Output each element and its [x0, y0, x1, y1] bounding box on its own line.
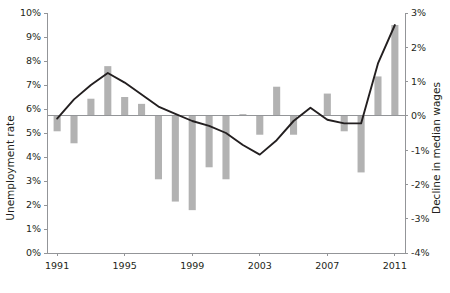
right-tick-label: -3% — [411, 213, 430, 224]
bar-1992 — [70, 116, 77, 143]
right-axis-title: Decline in median wages — [430, 82, 442, 214]
bar-1998 — [172, 116, 179, 202]
bar-2000 — [206, 116, 213, 167]
left-tick-label: 0% — [26, 247, 41, 258]
left-tick-label: 1% — [26, 223, 41, 234]
left-tick-label: 3% — [26, 175, 41, 186]
right-tick-label: 1% — [411, 76, 426, 87]
left-tick-label: 6% — [26, 103, 41, 114]
x-tick-label: 1995 — [113, 260, 137, 271]
chart-container: 0%1%2%3%4%5%6%7%8%9%10% -4%-3%-2%-1%0%1%… — [0, 0, 450, 293]
left-tick-label: 8% — [26, 55, 41, 66]
x-tick-label: 1991 — [45, 260, 69, 271]
left-tick-label: 7% — [26, 79, 41, 90]
bar-2011 — [391, 25, 398, 116]
bar-1993 — [87, 99, 94, 116]
bar-2010 — [374, 76, 381, 115]
bar-1996 — [138, 104, 145, 116]
x-tick-label: 1999 — [180, 260, 204, 271]
x-tick-label: 2003 — [248, 260, 272, 271]
right-tick-label: 2% — [411, 42, 426, 53]
left-tick-label: 9% — [26, 31, 41, 42]
bar-1999 — [189, 116, 196, 210]
bar-2004 — [273, 87, 280, 116]
bar-2003 — [256, 116, 263, 135]
bar-1995 — [121, 97, 128, 116]
bar-2007 — [324, 94, 331, 116]
right-tick-label: -1% — [411, 145, 430, 156]
left-tick-label: 2% — [26, 199, 41, 210]
right-tick-label: 0% — [411, 110, 426, 121]
x-tick-label: 2007 — [315, 260, 339, 271]
x-tick-label: 2011 — [383, 260, 407, 271]
right-tick-label: -2% — [411, 179, 430, 190]
right-tick-label: 3% — [411, 7, 426, 18]
bar-2001 — [222, 116, 229, 179]
dual-axis-chart: 0%1%2%3%4%5%6%7%8%9%10% -4%-3%-2%-1%0%1%… — [0, 0, 450, 293]
left-tick-label: 5% — [26, 127, 41, 138]
left-axis-title: Unemployment rate — [4, 115, 16, 220]
right-tick-label: -4% — [411, 247, 430, 258]
bar-1997 — [155, 116, 162, 179]
left-tick-label: 4% — [26, 151, 41, 162]
left-tick-label: 10% — [20, 7, 41, 18]
